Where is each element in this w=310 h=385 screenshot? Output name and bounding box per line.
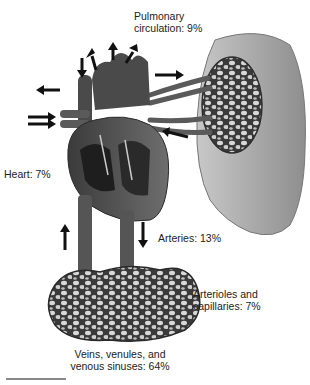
circulation-diagram (0, 0, 310, 385)
label-veins-line2: venous sinuses: 64% (60, 360, 180, 372)
arrow-icon (92, 56, 96, 70)
label-heart: Heart: 7% (4, 168, 51, 180)
label-pulmonary: Pulmonary circulation: 9% (134, 10, 202, 34)
label-arterioles-line2: capillaries: 7% (193, 300, 261, 312)
label-pulmonary-line1: Pulmonary (134, 10, 202, 22)
label-arterioles-line1: Arterioles and (193, 288, 261, 300)
footer-rule (6, 378, 66, 380)
pulmonary-capillary-bed (202, 57, 262, 153)
label-pulmonary-line2: circulation: 9% (134, 22, 202, 34)
label-arteries: Arteries: 13% (158, 232, 221, 244)
venous-bed (49, 266, 200, 341)
label-arterioles: Arterioles and capillaries: 7% (193, 288, 261, 312)
label-veins: Veins, venules, and venous sinuses: 64% (60, 348, 180, 372)
label-veins-line1: Veins, venules, and (60, 348, 180, 360)
lung (197, 34, 306, 235)
